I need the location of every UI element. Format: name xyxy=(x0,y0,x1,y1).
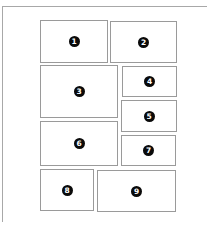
number-badge-2: 2 xyxy=(138,37,149,48)
panel-1: 1 xyxy=(40,20,108,63)
panel-8: 8 xyxy=(40,169,94,211)
number-badge-1: 1 xyxy=(69,36,80,47)
panel-9: 9 xyxy=(97,170,176,212)
number-badge-6: 6 xyxy=(74,138,85,149)
panel-7: 7 xyxy=(121,135,176,166)
number-badge-5: 5 xyxy=(144,111,155,122)
number-badge-3: 3 xyxy=(74,86,85,97)
number-badge-4: 4 xyxy=(144,76,155,87)
number-badge-7: 7 xyxy=(143,145,154,156)
number-badge-8: 8 xyxy=(62,185,73,196)
panel-5: 5 xyxy=(121,100,177,132)
panel-2: 2 xyxy=(110,21,177,63)
panel-4: 4 xyxy=(122,66,177,97)
panel-3: 3 xyxy=(40,65,118,118)
panel-6: 6 xyxy=(40,121,118,166)
number-badge-9: 9 xyxy=(131,186,142,197)
